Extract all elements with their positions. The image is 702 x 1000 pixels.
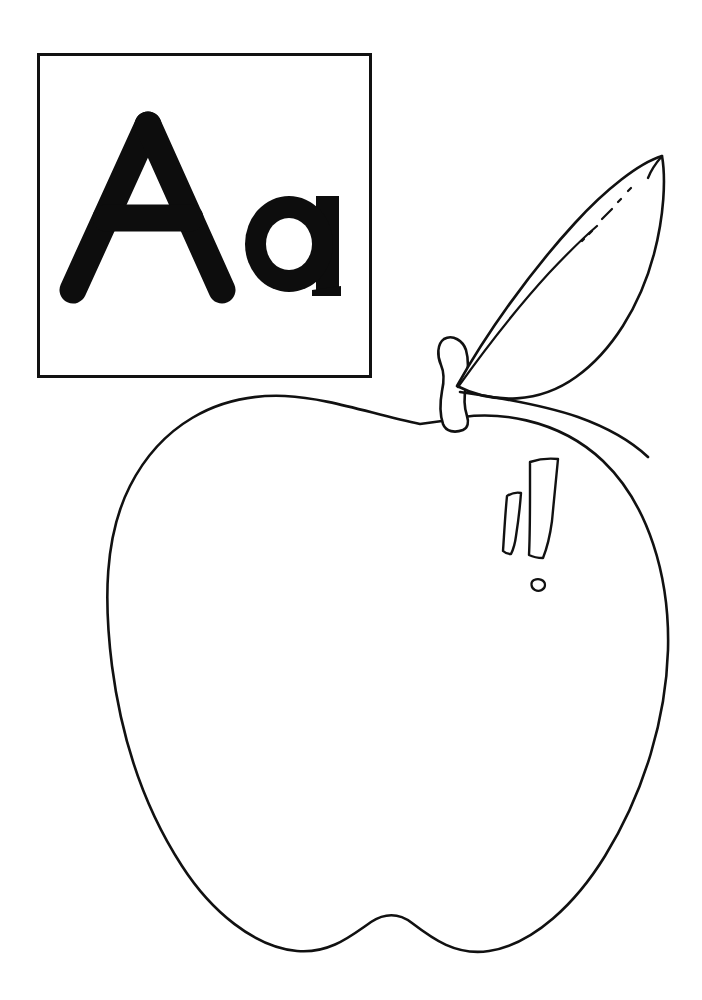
letter-box: [39, 55, 371, 377]
coloring-page: A a Aa Apple Coloring Page: [0, 0, 702, 1000]
highlight-dot: [531, 579, 545, 591]
apple-body: [107, 396, 668, 952]
artboard: [0, 0, 702, 1000]
letter-a-counter: [266, 218, 312, 270]
